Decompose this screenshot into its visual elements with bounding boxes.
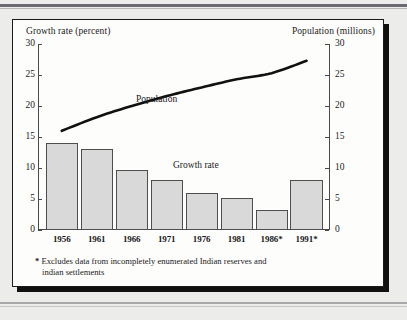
bar-series-growth-rate xyxy=(38,44,330,230)
footnote-marker: * xyxy=(35,256,39,266)
bar-1956 xyxy=(46,143,78,230)
right-tick-label: 5 xyxy=(335,194,353,204)
chart-card: Growth rate (percent) Population (millio… xyxy=(12,19,384,287)
right-tick xyxy=(325,230,329,231)
left-axis-title: Growth rate (percent) xyxy=(26,26,110,36)
scan-rule-bottom-thin xyxy=(0,306,407,307)
left-tick-label: 0 xyxy=(19,225,35,235)
scan-rule-top xyxy=(0,4,407,7)
bar-1991-star xyxy=(290,180,322,230)
left-tick-label: 15 xyxy=(19,132,35,142)
right-tick-label: 0 xyxy=(335,225,353,235)
footnote: * Excludes data from incompletely enumer… xyxy=(35,256,365,278)
left-tick xyxy=(38,230,42,231)
bar-1961 xyxy=(81,149,113,230)
bar-1966 xyxy=(116,170,148,230)
right-tick-label: 30 xyxy=(335,39,353,49)
right-axis-title: Population (millions) xyxy=(292,26,375,36)
bar-1986-star xyxy=(256,210,288,230)
left-tick-label: 5 xyxy=(19,194,35,204)
bar-1981 xyxy=(221,198,253,230)
footnote-line-2: indian settlements xyxy=(35,267,365,278)
plot-area: Growth rate (percent) Population (millio… xyxy=(13,20,385,288)
left-tick-label: 10 xyxy=(19,163,35,173)
x-label-1991-star: 1991* xyxy=(287,234,327,244)
scan-rule-top-thin xyxy=(0,8,407,9)
bar-1976 xyxy=(186,193,218,230)
right-tick-label: 25 xyxy=(335,70,353,80)
scan-rule-bottom xyxy=(0,302,407,304)
figure-page: Growth rate (percent) Population (millio… xyxy=(0,0,407,320)
right-tick-label: 15 xyxy=(335,132,353,142)
left-tick-label: 30 xyxy=(19,39,35,49)
bar-1971 xyxy=(151,180,183,230)
footnote-line-1: Excludes data from incompletely enumerat… xyxy=(41,256,266,266)
left-tick-label: 20 xyxy=(19,101,35,111)
annotation-growth-rate: Growth rate xyxy=(173,160,219,170)
right-tick-label: 20 xyxy=(335,101,353,111)
annotation-population: Population xyxy=(136,94,177,104)
x-axis-category-labels: 1956196119661971197619811986*1991* xyxy=(38,234,330,250)
right-tick-label: 10 xyxy=(335,163,353,173)
left-tick-label: 25 xyxy=(19,70,35,80)
